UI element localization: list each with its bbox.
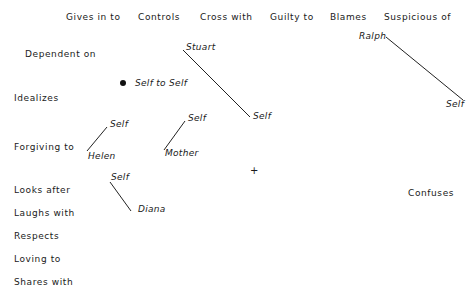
relationship-lines: [0, 0, 473, 300]
point-ralph: Ralph: [359, 31, 386, 41]
point-helen-self: Self: [110, 119, 128, 129]
point-diana: Diana: [138, 204, 166, 214]
point-ralph-self: Self: [446, 99, 464, 109]
point-stuart-self: Self: [253, 111, 271, 121]
point-helen: Helen: [88, 151, 116, 161]
point-mother: Mother: [165, 148, 199, 158]
origin-plus-icon: +: [250, 165, 258, 176]
self-to-self-dot-icon: [120, 80, 126, 86]
point-diana-self: Self: [111, 172, 129, 182]
point-mother-self: Self: [188, 113, 206, 123]
point-stuart: Stuart: [186, 42, 216, 52]
point-self-to-self: Self to Self: [135, 78, 187, 88]
